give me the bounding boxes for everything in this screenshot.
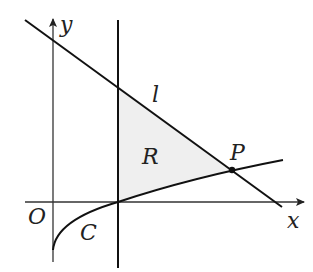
x-axis-label: x: [287, 208, 300, 233]
curve-c-label: C: [80, 220, 97, 245]
point-p-label: P: [229, 140, 246, 165]
diagram-canvas: y x O l C R P: [0, 0, 313, 272]
region-r-label: R: [141, 144, 159, 169]
point-p-marker: [229, 167, 235, 173]
y-axis-label: y: [59, 12, 73, 37]
line-l-label: l: [152, 82, 159, 107]
origin-label: O: [28, 204, 46, 229]
